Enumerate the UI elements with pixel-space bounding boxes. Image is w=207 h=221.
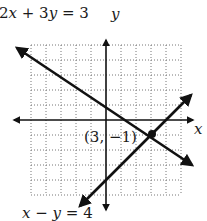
x-axis-label: x	[194, 120, 203, 138]
equation-label-1: 2x + 3y = 3	[0, 4, 89, 22]
intersection-point	[148, 130, 156, 138]
y-axis-label: y	[110, 5, 120, 23]
equation-label-2: x − y = 4	[22, 204, 93, 221]
intersection-label: (3, −1)	[84, 128, 137, 146]
coordinate-graph: x y (3, −1) 2x + 3y = 3 x − y = 4	[0, 0, 207, 221]
line-2x-plus-3y-eq-3	[17, 48, 192, 165]
